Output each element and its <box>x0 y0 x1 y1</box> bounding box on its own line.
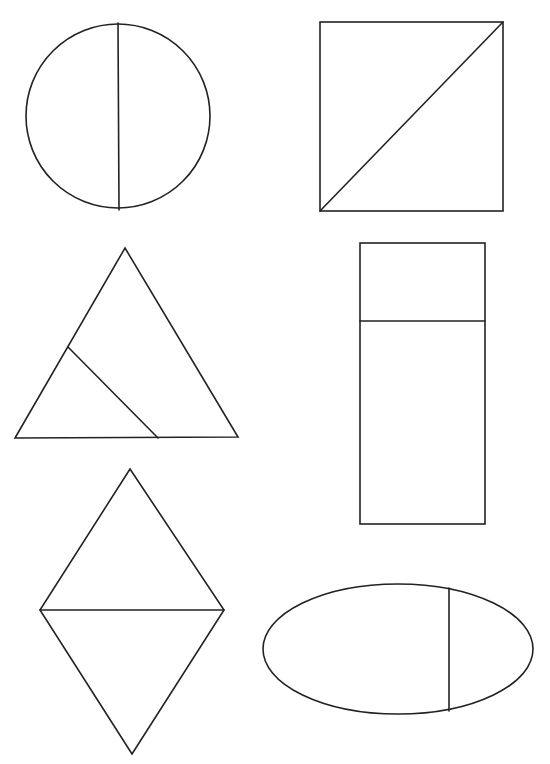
triangle-shape <box>15 248 238 438</box>
circle-divider-line <box>118 23 119 210</box>
square-shape <box>320 22 503 211</box>
triangle-outline <box>15 248 238 438</box>
rectangle-shape <box>360 243 485 524</box>
triangle-divider-line <box>68 347 158 438</box>
square-diagonal-line <box>320 22 503 211</box>
ellipse-shape <box>263 584 533 714</box>
rhombus-shape <box>40 469 224 754</box>
rhombus-outline <box>40 469 224 754</box>
circle-shape <box>26 23 210 210</box>
ellipse-outline <box>263 584 533 714</box>
shapes-worksheet <box>0 0 550 764</box>
rectangle-outline <box>360 243 485 524</box>
